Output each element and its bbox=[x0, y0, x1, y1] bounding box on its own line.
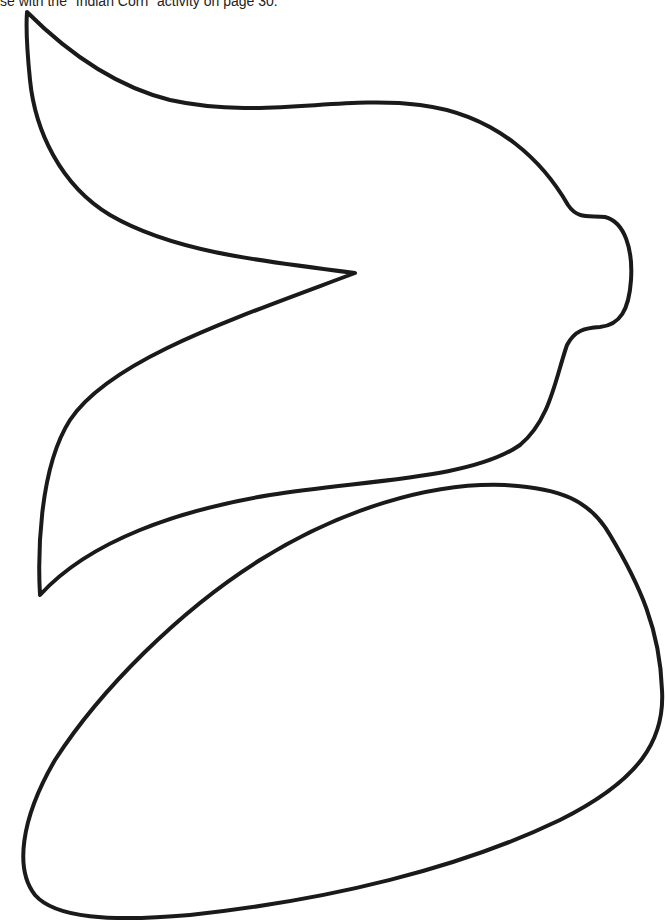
corn-husk-outline bbox=[27, 12, 632, 595]
template-drawing bbox=[0, 0, 666, 923]
corn-cob-outline bbox=[23, 485, 662, 918]
